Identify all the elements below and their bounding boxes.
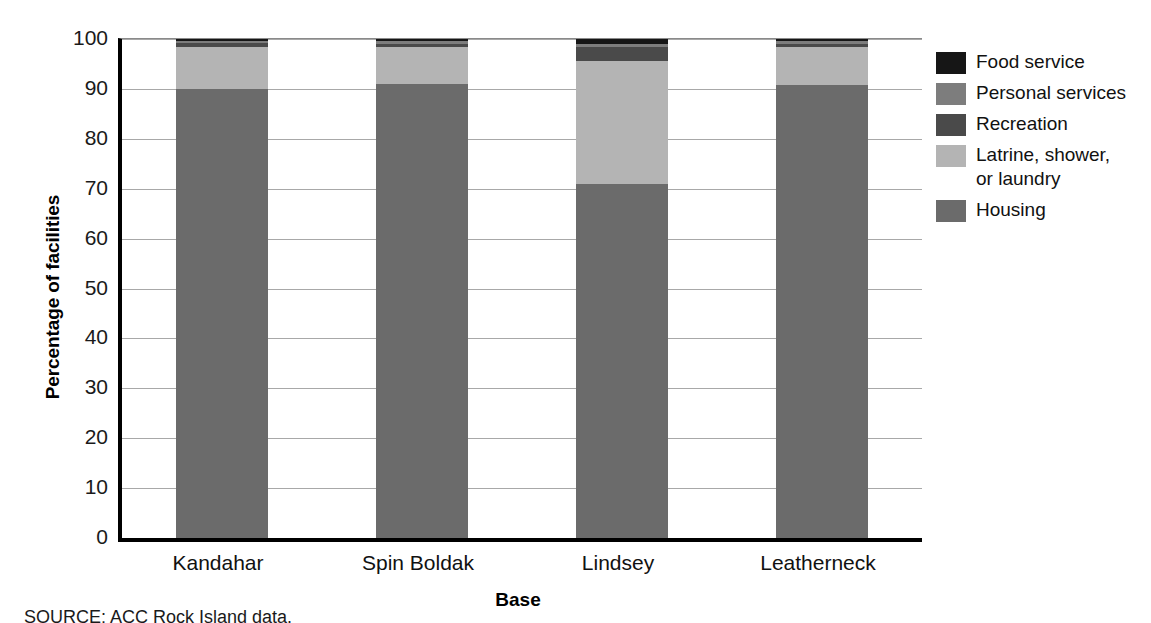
- legend-item: Personal services: [936, 81, 1151, 105]
- bar-segment: [776, 41, 868, 43]
- bar-segment: [576, 44, 668, 47]
- bar-segment: [576, 39, 668, 43]
- y-tick-label: 70: [18, 177, 108, 198]
- y-tick-label: 60: [18, 227, 108, 248]
- y-tick-label: 40: [18, 326, 108, 347]
- legend-item: Recreation: [936, 112, 1151, 136]
- legend-label: Food service: [976, 50, 1085, 74]
- bar-segment: [576, 184, 668, 538]
- legend-label: Housing: [976, 198, 1046, 222]
- bar-segment: [376, 39, 468, 41]
- bar-segment: [776, 85, 868, 538]
- legend-swatch-icon: [936, 52, 966, 74]
- bar-segment: [776, 47, 868, 85]
- x-tick-label: Leatherneck: [698, 551, 938, 575]
- legend-swatch-icon: [936, 83, 966, 105]
- legend-swatch-icon: [936, 114, 966, 136]
- bar-segment: [376, 84, 468, 538]
- plot-area: [118, 38, 922, 542]
- bar-lindsey: [576, 39, 668, 538]
- bar-kandahar: [176, 39, 268, 538]
- y-tick-label: 0: [18, 526, 108, 547]
- bar-segment: [176, 89, 268, 538]
- y-tick-label: 90: [18, 77, 108, 98]
- legend-label: Personal services: [976, 81, 1126, 105]
- bar-segment: [576, 61, 668, 183]
- legend-item: Latrine, shower, or laundry: [936, 143, 1151, 191]
- bar-segment: [576, 47, 668, 62]
- bar-segment: [176, 43, 268, 46]
- y-tick-label: 100: [18, 27, 108, 48]
- legend-swatch-icon: [936, 145, 966, 167]
- legend-label: Recreation: [976, 112, 1068, 136]
- bar-segment: [376, 41, 468, 43]
- y-tick-label: 10: [18, 476, 108, 497]
- legend-item: Food service: [936, 50, 1151, 74]
- chart-legend: Food servicePersonal servicesRecreationL…: [936, 50, 1151, 229]
- bar-segment: [176, 41, 268, 43]
- bar-spin-boldak: [376, 39, 468, 538]
- y-tick-label: 20: [18, 426, 108, 447]
- legend-swatch-icon: [936, 200, 966, 222]
- bar-segment: [376, 47, 468, 84]
- y-tick-label: 50: [18, 277, 108, 298]
- bar-segment: [376, 44, 468, 47]
- bar-leatherneck: [776, 39, 868, 538]
- legend-item: Housing: [936, 198, 1151, 222]
- source-note: SOURCE: ACC Rock Island data.: [24, 607, 292, 623]
- stacked-bar-chart-figure: Percentage of facilities 010203040506070…: [0, 0, 1151, 623]
- bar-segment: [776, 44, 868, 47]
- bar-segment: [776, 39, 868, 41]
- bar-segment: [176, 47, 268, 89]
- legend-label: Latrine, shower, or laundry: [976, 143, 1110, 191]
- bar-segment: [176, 39, 268, 40]
- plot-inner: [122, 39, 922, 538]
- y-tick-label: 30: [18, 376, 108, 397]
- y-tick-label: 80: [18, 127, 108, 148]
